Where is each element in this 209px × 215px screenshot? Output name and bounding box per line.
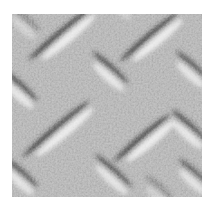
diamond-plate-texture-image xyxy=(0,0,209,215)
halftone-grain-overlay xyxy=(12,14,202,197)
texture-swatch: Grayscale close-up photograph of diamond… xyxy=(0,0,209,215)
